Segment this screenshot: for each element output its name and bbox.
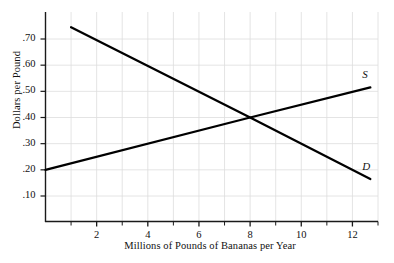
x-axis-ticks — [71, 222, 378, 227]
x-axis-title: Millions of Pounds of Bananas per Year — [45, 240, 375, 251]
y-tick-label: .60 — [10, 58, 36, 69]
y-tick-label: .50 — [10, 84, 36, 95]
curve-label-D: D — [362, 160, 370, 172]
y-tick-label: .70 — [10, 32, 36, 43]
data-series-lines — [46, 27, 371, 179]
x-tick-label: 2 — [87, 229, 107, 240]
horizontal-gridlines — [46, 39, 379, 196]
axis-lines — [45, 12, 378, 222]
curve-label-S: S — [362, 68, 368, 80]
vertical-gridlines — [71, 12, 378, 222]
series-line-D — [71, 27, 370, 179]
x-tick-label: 8 — [240, 229, 260, 240]
y-tick-label: .20 — [10, 163, 36, 174]
series-line-S — [46, 87, 371, 169]
x-axis-title-wrap: Millions of Pounds of Bananas per Year — [45, 240, 375, 256]
y-tick-label: .40 — [10, 111, 36, 122]
y-tick-label: .30 — [10, 137, 36, 148]
y-axis-ticks — [41, 39, 46, 196]
x-tick-label: 12 — [342, 229, 362, 240]
supply-demand-chart: Dollars per Pound Millions of Pounds of … — [0, 0, 394, 263]
x-tick-label: 10 — [291, 229, 311, 240]
plot-area — [0, 0, 394, 263]
y-tick-label: .10 — [10, 189, 36, 200]
x-tick-label: 6 — [189, 229, 209, 240]
x-tick-label: 4 — [138, 229, 158, 240]
